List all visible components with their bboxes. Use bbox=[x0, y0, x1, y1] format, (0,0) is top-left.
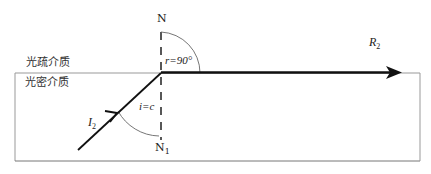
normal-top-label: N bbox=[157, 13, 167, 24]
incident-ray-label: I2 bbox=[88, 116, 96, 131]
incidence-angle-label: i=c bbox=[139, 101, 154, 112]
incident-ray-arrow-icon bbox=[105, 111, 117, 122]
normal-bottom-label: N1 bbox=[155, 142, 170, 156]
lower-medium-label: 光密介质 bbox=[25, 77, 69, 88]
refraction-angle-arc bbox=[161, 32, 200, 73]
refracted-ray-label: R2 bbox=[369, 36, 380, 51]
upper-medium-label: 光疏介质 bbox=[26, 57, 70, 68]
incidence-angle-arc bbox=[118, 111, 159, 136]
refraction-angle-label: r=90° bbox=[165, 55, 192, 66]
